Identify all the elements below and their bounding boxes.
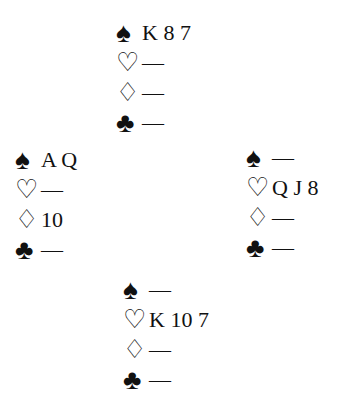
- south-diamonds-row: ♢ —: [123, 335, 209, 365]
- diamond-icon: ♢: [246, 203, 272, 233]
- north-hearts-cards: —: [142, 48, 164, 78]
- south-hearts-row: ♡ K 10 7: [123, 305, 209, 335]
- south-clubs-row: ♣ —: [123, 365, 209, 395]
- north-hand: ♠ K 8 7 ♡ — ♢ — ♣ —: [116, 18, 191, 138]
- club-icon: ♣: [116, 108, 142, 138]
- north-spades-row: ♠ K 8 7: [116, 18, 191, 48]
- east-diamonds-cards: —: [272, 203, 294, 233]
- east-hearts-cards: Q J 8: [272, 173, 318, 203]
- west-hand: ♠ A Q ♡ — ♢ 10 ♣ —: [15, 145, 77, 265]
- north-clubs-row: ♣ —: [116, 108, 191, 138]
- spade-icon: ♠: [246, 143, 272, 173]
- south-clubs-cards: —: [149, 365, 171, 395]
- west-hearts-row: ♡ —: [15, 175, 77, 205]
- heart-icon: ♡: [123, 305, 149, 335]
- south-hearts-cards: K 10 7: [149, 305, 209, 335]
- west-clubs-cards: —: [41, 235, 63, 265]
- club-icon: ♣: [246, 233, 272, 263]
- south-spades-cards: —: [149, 275, 171, 305]
- east-diamonds-row: ♢ —: [246, 203, 318, 233]
- south-spades-row: ♠ —: [123, 275, 209, 305]
- spade-icon: ♠: [123, 275, 149, 305]
- club-icon: ♣: [15, 235, 41, 265]
- heart-icon: ♡: [246, 173, 272, 203]
- west-clubs-row: ♣ —: [15, 235, 77, 265]
- north-diamonds-row: ♢ —: [116, 78, 191, 108]
- heart-icon: ♡: [15, 175, 41, 205]
- north-spades-cards: K 8 7: [142, 18, 191, 48]
- north-hearts-row: ♡ —: [116, 48, 191, 78]
- diamond-icon: ♢: [116, 78, 142, 108]
- spade-icon: ♠: [15, 145, 41, 175]
- south-hand: ♠ — ♡ K 10 7 ♢ — ♣ —: [123, 275, 209, 395]
- south-diamonds-cards: —: [149, 335, 171, 365]
- west-spades-cards: A Q: [41, 145, 77, 175]
- west-hearts-cards: —: [41, 175, 63, 205]
- east-spades-cards: —: [272, 143, 294, 173]
- west-diamonds-row: ♢ 10: [15, 205, 77, 235]
- club-icon: ♣: [123, 365, 149, 395]
- diamond-icon: ♢: [15, 205, 41, 235]
- north-diamonds-cards: —: [142, 78, 164, 108]
- west-spades-row: ♠ A Q: [15, 145, 77, 175]
- east-hearts-row: ♡ Q J 8: [246, 173, 318, 203]
- west-diamonds-cards: 10: [41, 205, 63, 235]
- north-clubs-cards: —: [142, 108, 164, 138]
- east-hand: ♠ — ♡ Q J 8 ♢ — ♣ —: [246, 143, 318, 263]
- east-spades-row: ♠ —: [246, 143, 318, 173]
- east-clubs-cards: —: [272, 233, 294, 263]
- heart-icon: ♡: [116, 48, 142, 78]
- diamond-icon: ♢: [123, 335, 149, 365]
- east-clubs-row: ♣ —: [246, 233, 318, 263]
- spade-icon: ♠: [116, 18, 142, 48]
